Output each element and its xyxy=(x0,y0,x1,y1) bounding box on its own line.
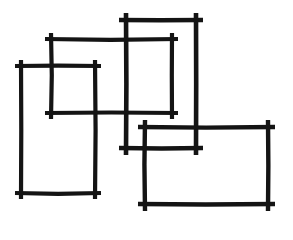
rectangle-left-tall-bottom-edge xyxy=(15,193,101,194)
rectangle-left-tall-right-edge xyxy=(95,60,96,199)
overlapping-rectangles-drawing xyxy=(0,0,293,240)
rectangle-lower-right-wide-top-edge xyxy=(138,127,275,128)
rectangle-upper-left-wide-left-edge xyxy=(51,33,52,119)
rectangle-lower-right-wide-left-edge xyxy=(144,120,145,211)
sketch-canvas xyxy=(0,0,293,240)
rectangle-upper-left-wide-top-edge xyxy=(45,39,178,40)
